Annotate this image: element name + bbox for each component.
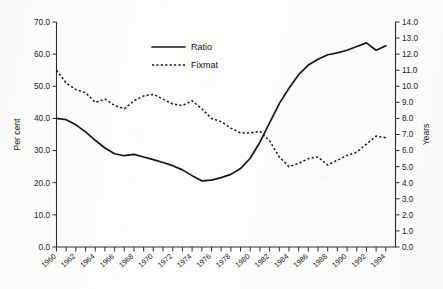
y2-axis-tick-label: 0.0 (402, 243, 414, 252)
x-axis-tick-label: 1960 (40, 252, 58, 270)
y2-axis-tick-label: 14.0 (402, 18, 418, 27)
x-axis-tick-label: 1978 (214, 252, 232, 270)
x-axis-tick-label: 1968 (117, 252, 135, 270)
x-axis-tick-label: 1990 (330, 252, 348, 270)
y2-axis-tick-label: 9.0 (402, 98, 414, 107)
x-axis-tick-label: 1986 (291, 252, 309, 270)
x-axis-tick-label: 1970 (136, 252, 154, 270)
legend-label-ratio: Ratio (191, 42, 212, 52)
y2-axis-tick-label: 11.0 (402, 66, 418, 75)
y2-axis-tick-label: 10.0 (402, 82, 418, 91)
y-axis-tick-label: 50.0 (34, 82, 50, 91)
y-axis-tick-label: 60.0 (34, 50, 50, 59)
y2-axis-tick-label: 7.0 (402, 130, 414, 139)
x-axis-tick-label: 1974 (175, 252, 193, 270)
y-axis-tick-label: 0.0 (39, 243, 51, 252)
y2-axis-tick-label: 2.0 (402, 211, 414, 220)
line-chart: 0.010.020.030.040.050.060.070.00.01.02.0… (0, 0, 443, 289)
x-axis-tick-label: 1984 (272, 252, 290, 270)
y2-axis-tick-label: 6.0 (402, 146, 414, 155)
chart-container: 0.010.020.030.040.050.060.070.00.01.02.0… (0, 0, 443, 289)
y-axis-title: Per cent (12, 118, 22, 151)
x-axis-tick-label: 1964 (78, 252, 96, 270)
series-line-fixmat (57, 70, 386, 166)
x-axis-tick-label: 1976 (195, 252, 213, 270)
y-axis-tick-label: 70.0 (34, 18, 50, 27)
x-axis-tick-label: 1988 (311, 252, 329, 270)
y-axis-tick-label: 40.0 (34, 114, 50, 123)
y2-axis-tick-label: 3.0 (402, 195, 414, 204)
x-axis-tick-label: 1992 (350, 252, 368, 270)
axis-frame (57, 22, 396, 247)
x-axis-tick-label: 1966 (98, 252, 116, 270)
series-line-ratio (57, 43, 386, 181)
y2-axis-title: Years (421, 124, 431, 146)
x-axis-tick-label: 1980 (233, 252, 251, 270)
y-axis-tick-label: 30.0 (34, 146, 50, 155)
y2-axis-tick-label: 4.0 (402, 179, 414, 188)
y2-axis-tick-label: 5.0 (402, 163, 414, 172)
y-axis-tick-label: 10.0 (34, 211, 50, 220)
x-axis-tick-label: 1982 (253, 252, 271, 270)
x-axis-tick-label: 1962 (59, 252, 77, 270)
y2-axis-tick-label: 13.0 (402, 34, 418, 43)
x-axis-tick-label: 1972 (156, 252, 174, 270)
y-axis-tick-label: 20.0 (34, 179, 50, 188)
y2-axis-tick-label: 12.0 (402, 50, 418, 59)
x-axis-tick-label: 1994 (369, 252, 387, 270)
y2-axis-tick-label: 8.0 (402, 114, 414, 123)
legend-label-fixmat: Fixmat (191, 60, 218, 70)
y2-axis-tick-label: 1.0 (402, 227, 414, 236)
